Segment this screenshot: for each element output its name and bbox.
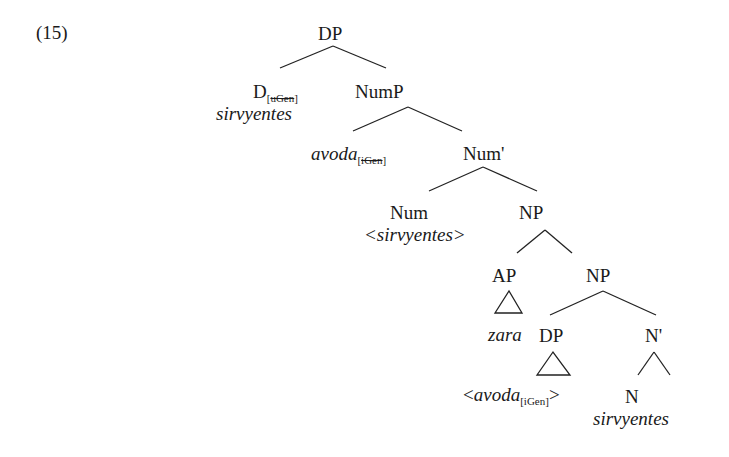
trace-sirvyentes-num: <sirvyentes> — [364, 225, 466, 244]
edge-numbar-num — [429, 167, 483, 191]
example-number: (15) — [36, 23, 68, 42]
node-np-lower: NP — [586, 266, 610, 285]
edge-nplower-nbar — [603, 291, 656, 315]
edge-np-ap — [517, 230, 545, 253]
node-spec-nump: avoda[iGen] — [311, 144, 386, 163]
word-sirvyentes-d: sirvyentes — [216, 104, 292, 123]
node-nump: NumP — [355, 82, 404, 101]
node-n-bar: N' — [645, 326, 662, 345]
word-sirvyentes-n: sirvyentes — [593, 409, 669, 428]
edge-np-nplower — [545, 230, 572, 253]
dp-triangle — [537, 352, 570, 375]
node-dp-inner: DP — [539, 326, 563, 345]
node-n: N — [625, 387, 639, 406]
word-avoda: avoda — [311, 143, 357, 164]
trace-avoda-dp: <avoda[iGen]> — [463, 385, 560, 404]
edge-dp-nump — [333, 46, 386, 68]
node-num-bar: Num' — [463, 144, 504, 163]
node-dp-root: DP — [318, 24, 342, 43]
edge-nump-spec — [353, 107, 408, 131]
ap-triangle — [495, 291, 522, 313]
node-np-upper: NP — [519, 203, 543, 222]
edge-nplower-dp — [550, 291, 603, 315]
edge-nump-numbar — [408, 107, 462, 131]
feature-igen-struck: iGen — [361, 154, 382, 166]
node-num: Num — [390, 203, 428, 222]
node-d-head: D[uGen] — [253, 82, 298, 101]
feature-igen: iGen — [524, 395, 545, 407]
edge-nbar-n-right — [654, 352, 670, 375]
edge-numbar-np — [483, 167, 537, 191]
node-ap: AP — [492, 266, 516, 285]
edge-nbar-n-left — [638, 352, 654, 375]
word-zara: zara — [488, 325, 522, 344]
node-d-label: D — [253, 81, 267, 102]
edge-dp-d — [280, 46, 333, 68]
word-avoda-trace: avoda — [474, 384, 520, 405]
